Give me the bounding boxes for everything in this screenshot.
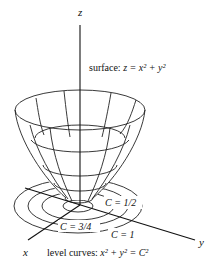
paraboloid-diagram: z x y surface: z = x² + y² C = 1/2 C = 3…	[0, 0, 214, 275]
x-axis-label: x	[22, 246, 28, 258]
surface-label: surface: z = x² + y²	[89, 62, 166, 73]
z-axis-label: z	[77, 6, 83, 18]
level-label-c-one: C = 1	[111, 229, 134, 240]
level-label-c-three-quarters: C = 3/4	[60, 221, 91, 232]
level-label-c-half: C = 1/2	[105, 197, 136, 208]
level-curves-label: level curves: x² + y² = C²	[47, 247, 149, 258]
y-axis-label: y	[198, 236, 204, 248]
